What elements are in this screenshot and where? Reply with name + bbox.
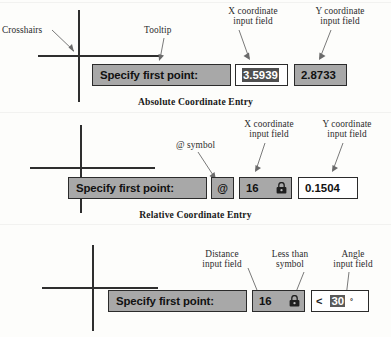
leader-y-coordinate-relative bbox=[330, 143, 352, 176]
lock-icon bbox=[289, 295, 300, 307]
label-distance-input-field: Distance input field bbox=[185, 249, 259, 270]
label-distance-line1: Distance bbox=[205, 249, 238, 259]
less-than-symbol: < bbox=[312, 295, 325, 307]
label-y-coordinate-input-field: Y coordinate input field bbox=[303, 6, 377, 27]
leader-y-coordinate bbox=[317, 30, 339, 63]
label-x-coordinate-input-field: X coordinate input field bbox=[216, 6, 290, 27]
lock-icon bbox=[276, 182, 287, 194]
x-coordinate-input-relative[interactable]: 16 bbox=[239, 177, 292, 199]
label-y-coordinate-input-field-relative: Y coordinate input field bbox=[310, 119, 384, 140]
distance-value: 16 bbox=[259, 295, 272, 307]
label-angle-line1: Angle bbox=[341, 249, 364, 259]
diagram-canvas: Crosshairs Tooltip X coordinate input fi… bbox=[0, 0, 391, 337]
scan-artifact bbox=[0, 2, 391, 3]
leader-tooltip bbox=[158, 38, 176, 64]
degree-symbol: ° bbox=[350, 297, 353, 306]
label-x-coordinate-line2: input field bbox=[233, 16, 273, 26]
leader-crosshairs bbox=[52, 30, 84, 58]
distance-input-field[interactable]: 16 bbox=[252, 290, 305, 312]
label-x-coordinate-relative-line2: input field bbox=[249, 129, 289, 139]
label-less-than-line1: Less than bbox=[272, 249, 308, 259]
crosshairs-relative bbox=[30, 125, 155, 213]
crosshair-vertical-line bbox=[92, 245, 94, 331]
label-x-coordinate-relative-line1: X coordinate bbox=[244, 119, 293, 129]
label-tooltip: Tooltip bbox=[144, 25, 171, 35]
y-coordinate-input-relative[interactable]: 0.1504 bbox=[298, 177, 358, 199]
tooltip-row-absolute: Specify first point: 3.5939 2.8733 bbox=[92, 64, 347, 86]
scan-artifact bbox=[0, 224, 391, 225]
tooltip-row-polar: Specify first point: 16 < 30 ° bbox=[108, 290, 369, 312]
tooltip-row-relative: Specify first point: @ 16 0.1504 bbox=[68, 177, 358, 199]
label-y-coordinate-relative-line1: Y coordinate bbox=[322, 119, 371, 129]
label-angle-input-field: Angle input field bbox=[320, 249, 386, 270]
angle-input-field[interactable]: < 30 ° bbox=[311, 290, 369, 312]
prompt-tooltip-absolute: Specify first point: bbox=[92, 64, 231, 86]
label-y-coordinate-line2: input field bbox=[320, 16, 360, 26]
y-coordinate-input-absolute[interactable]: 2.8733 bbox=[294, 64, 347, 86]
at-symbol-field[interactable]: @ bbox=[211, 177, 234, 199]
x-coordinate-value-relative: 16 bbox=[246, 182, 259, 194]
crosshair-horizontal-line bbox=[30, 167, 155, 169]
label-x-coordinate-line1: X coordinate bbox=[228, 6, 277, 16]
caption-relative-coordinate-entry: Relative Coordinate Entry bbox=[0, 209, 391, 220]
prompt-tooltip-polar: Specify first point: bbox=[108, 290, 247, 312]
prompt-tooltip-relative: Specify first point: bbox=[68, 177, 207, 199]
y-coordinate-value-relative: 0.1504 bbox=[305, 182, 340, 194]
label-at-symbol: @ symbol bbox=[176, 140, 215, 150]
label-y-coordinate-line1: Y coordinate bbox=[315, 6, 364, 16]
label-angle-line2: input field bbox=[333, 259, 373, 269]
angle-value: 30 bbox=[330, 295, 345, 307]
y-coordinate-value: 2.8733 bbox=[301, 69, 336, 81]
caption-absolute-coordinate-entry: Absolute Coordinate Entry bbox=[0, 96, 391, 107]
label-x-coordinate-input-field-relative: X coordinate input field bbox=[232, 119, 306, 140]
label-distance-line2: input field bbox=[202, 259, 242, 269]
label-y-coordinate-relative-line2: input field bbox=[327, 129, 367, 139]
leader-x-coordinate-relative bbox=[253, 143, 273, 176]
crosshair-horizontal-line bbox=[42, 287, 158, 289]
x-coordinate-input-absolute[interactable]: 3.5939 bbox=[235, 64, 288, 86]
label-less-than-line2: symbol bbox=[276, 259, 304, 269]
x-coordinate-value: 3.5939 bbox=[242, 68, 279, 82]
scan-artifact bbox=[0, 112, 391, 113]
label-less-than-symbol: Less than symbol bbox=[259, 249, 321, 270]
crosshair-vertical-line bbox=[80, 125, 82, 213]
label-crosshairs: Crosshairs bbox=[2, 25, 42, 35]
crosshairs-polar bbox=[42, 245, 158, 331]
leader-x-coordinate bbox=[238, 30, 258, 63]
